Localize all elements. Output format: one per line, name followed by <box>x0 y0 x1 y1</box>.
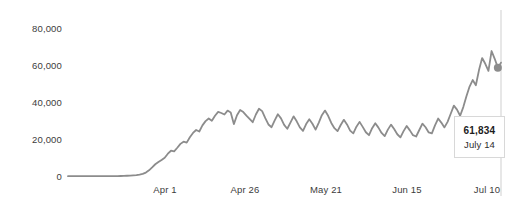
x-tick-label: Apr 26 <box>231 184 260 195</box>
line-chart: 80,000 60,000 40,000 20,000 0 Apr 1 Apr … <box>0 0 530 206</box>
data-point-tooltip: 61,834 July 14 <box>454 116 505 158</box>
x-tick-label: Apr 1 <box>153 184 176 195</box>
x-axis: Apr 1 Apr 26 May 21 Jun 15 Jul 10 <box>0 0 530 206</box>
tooltip-date-text: July 14 <box>464 139 495 150</box>
x-tick-label: Jun 15 <box>392 184 421 195</box>
x-tick-label: May 21 <box>310 184 342 195</box>
tooltip-value-text: 61,834 <box>464 125 496 136</box>
x-tick-label: Jul 10 <box>474 184 500 195</box>
